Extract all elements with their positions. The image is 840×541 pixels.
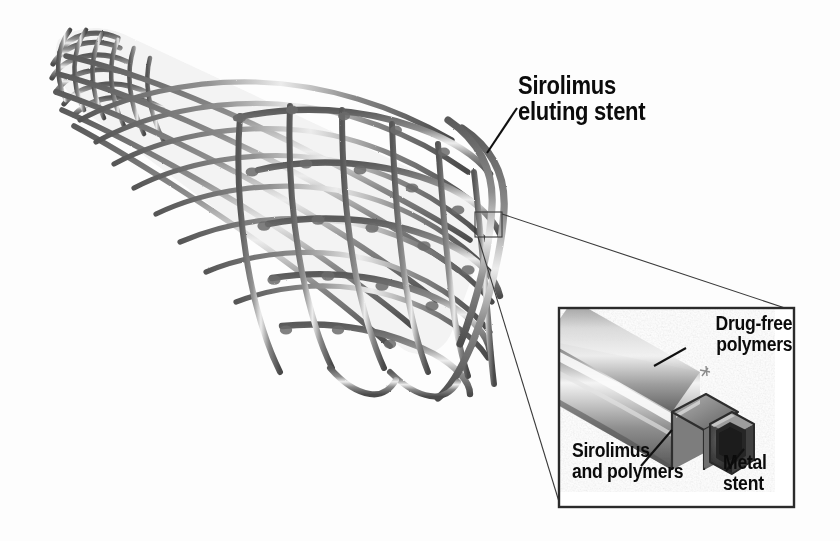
stent-figure — [0, 0, 840, 541]
label-sirolimus-eluting-stent: Sirolimus eluting stent — [518, 72, 645, 124]
label-sirolimus-and-polymers: Sirolimus and polymers — [572, 440, 683, 482]
label-drug-free-polymers: Drug-free polymers — [715, 313, 792, 355]
label-metal-stent: Metal stent — [723, 452, 767, 494]
illustration-canvas: Sirolimus eluting stent Drug-free polyme… — [0, 0, 840, 541]
